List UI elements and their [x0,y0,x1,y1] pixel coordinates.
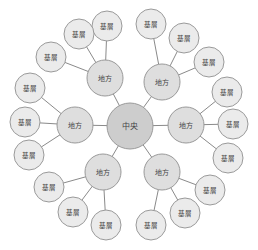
local-node: 地方 [168,107,204,143]
base-node-label: 基層 [202,58,216,67]
base-node: 基層 [194,47,224,77]
base-node-label: 基層 [177,34,191,43]
base-node-label: 基層 [22,151,36,160]
base-node: 基層 [213,143,243,173]
base-node: 基層 [91,210,121,240]
local-node: 地方 [85,154,121,190]
base-node: 基層 [136,210,166,240]
base-node: 基層 [136,9,166,39]
base-node-label: 基層 [221,154,235,163]
local-node: 地方 [87,60,123,96]
base-node: 基層 [170,198,200,228]
local-node-label: 地方 [155,168,169,177]
base-node: 基層 [14,140,44,170]
base-node-label: 基層 [99,221,113,230]
local-node-label: 地方 [96,168,110,177]
base-node-label: 基層 [72,30,86,39]
base-node: 基層 [218,109,248,139]
base-node: 基層 [195,175,225,205]
base-node-label: 基層 [144,20,158,29]
center-node-label: 中央 [122,121,138,131]
local-node: 地方 [57,107,93,143]
base-node: 基層 [34,172,64,202]
base-node: 基層 [169,23,199,53]
hierarchy-diagram: 中央地方基層基層基層地方基層基層基層地方基層基層基層地方基層基層基層地方基層基層… [0,0,258,250]
local-node-label: 地方 [179,121,193,130]
base-node-label: 基層 [66,208,80,217]
local-node-label: 地方 [155,78,169,87]
base-node: 基層 [10,107,40,137]
base-node: 基層 [92,11,122,41]
local-node: 地方 [144,64,180,100]
local-node-label: 地方 [98,74,112,83]
base-node: 基層 [58,197,88,227]
base-node: 基層 [15,73,45,103]
base-node: 基層 [212,77,242,107]
base-node-label: 基層 [42,183,56,192]
base-node: 基層 [64,19,94,49]
base-node-label: 基層 [100,22,114,31]
base-node-label: 基層 [44,53,58,62]
base-node-label: 基層 [18,118,32,127]
base-node-label: 基層 [203,186,217,195]
base-node-label: 基層 [220,88,234,97]
base-node: 基層 [36,42,66,72]
base-node-label: 基層 [23,84,37,93]
local-node-label: 地方 [68,121,82,130]
center-node: 中央 [107,103,153,149]
base-node-label: 基層 [144,221,158,230]
base-node-label: 基層 [178,209,192,218]
base-node-label: 基層 [226,120,240,129]
local-node: 地方 [144,154,180,190]
